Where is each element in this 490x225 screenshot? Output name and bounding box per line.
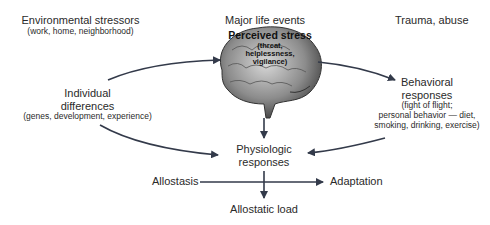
arrow-behavioral-to-physiologic bbox=[308, 138, 385, 153]
arrow-individual-to-stress bbox=[108, 60, 220, 80]
perceived-stress: Perceived stress (threat, helplessness, … bbox=[222, 30, 318, 66]
physiologic-responses-title-1: Physiologic bbox=[224, 143, 304, 156]
physiologic-responses-title-2: responses bbox=[224, 156, 304, 169]
environmental-stressors-detail: (work, home, neighborhood) bbox=[18, 27, 143, 37]
perceived-stress-title: Perceived stress bbox=[222, 30, 318, 42]
allostasis: Allostasis bbox=[152, 175, 198, 188]
behavioral-responses-title-1: Behavioral bbox=[372, 76, 482, 89]
allostatic-load: Allostatic load bbox=[228, 203, 300, 216]
perceived-stress-detail-3: vigilance) bbox=[222, 58, 318, 66]
trauma-abuse: Trauma, abuse bbox=[395, 14, 469, 27]
environmental-stressors: Environmental stressors (work, home, nei… bbox=[18, 14, 143, 36]
individual-differences: Individual differences (genes, developme… bbox=[10, 87, 165, 122]
behavioral-responses-detail-3: smoking, drinking, exercise) bbox=[372, 121, 482, 131]
arrow-individual-to-physiologic bbox=[100, 125, 218, 155]
major-life-events: Major life events bbox=[225, 14, 305, 27]
physiologic-responses: Physiologic responses bbox=[224, 143, 304, 168]
adaptation: Adaptation bbox=[330, 175, 383, 188]
behavioral-responses: Behavioral responses (fight of flight; p… bbox=[372, 76, 482, 131]
individual-differences-title-1: Individual bbox=[10, 87, 165, 100]
environmental-stressors-title: Environmental stressors bbox=[18, 14, 143, 27]
individual-differences-detail: (genes, development, experience) bbox=[10, 112, 165, 122]
